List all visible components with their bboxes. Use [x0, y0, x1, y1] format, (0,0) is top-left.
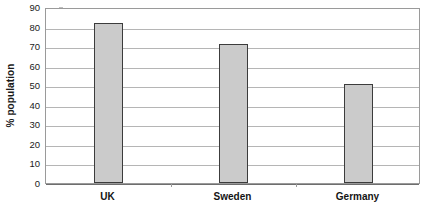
x-axis-category-labels: UKSwedenGermany — [45, 190, 420, 208]
y-axis-tick-label: 90 — [18, 3, 40, 13]
x-axis-tick-mark — [171, 183, 172, 187]
x-axis-category-label-germany: Germany — [336, 190, 379, 204]
y-axis-title: % population — [6, 63, 17, 127]
x-axis-tick-mark — [296, 183, 297, 187]
y-axis-tick-label: 40 — [18, 101, 40, 111]
y-axis-tick-labels: 0102030405060708090 — [18, 8, 40, 184]
x-axis-category-label-sweden: Sweden — [214, 190, 252, 204]
y-axis-tick-label: 70 — [18, 42, 40, 52]
y-axis-tick-label: 30 — [18, 121, 40, 131]
y-axis-tick-label: 60 — [18, 62, 40, 72]
x-axis-baseline — [46, 184, 419, 185]
plot-area — [45, 8, 420, 184]
y-axis-tick-label: 10 — [18, 160, 40, 170]
bar-sweden — [219, 44, 248, 183]
y-axis-tick-label: 80 — [18, 23, 40, 33]
x-axis-category-label-uk: UK — [100, 190, 114, 204]
y-axis-tick-label: 0 — [18, 179, 40, 189]
bar-germany — [344, 84, 373, 183]
bar-uk — [94, 23, 123, 183]
y-axis-tick-label: 50 — [18, 81, 40, 91]
y-axis-tick-label: 20 — [18, 140, 40, 150]
bar-chart-figure: % population 0102030405060708090 UKSwede… — [0, 0, 430, 215]
